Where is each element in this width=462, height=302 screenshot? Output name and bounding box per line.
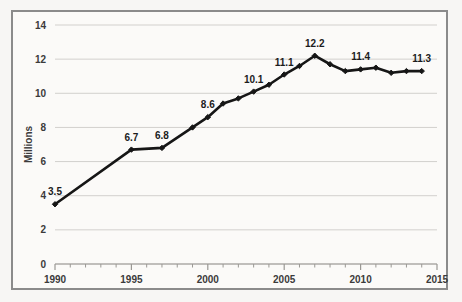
y-axis-tick-label: 6	[40, 156, 46, 167]
data-point-label: 8.6	[201, 99, 215, 110]
series-line-millions	[55, 56, 422, 205]
y-axis-tick-label: 12	[35, 54, 47, 65]
series-data-point	[358, 67, 363, 72]
series-data-point	[404, 68, 409, 73]
data-point-label: 12.2	[305, 38, 325, 49]
data-point-label: 11.1	[275, 57, 294, 68]
chart-figure: 02468101214 199019952000200520102015 3.5…	[0, 0, 462, 302]
data-point-label: 3.5	[48, 186, 62, 197]
gridlines-group	[55, 25, 437, 264]
axis-title-group: Millions	[23, 125, 34, 163]
x-axis-tick-label: 2010	[349, 274, 372, 285]
y-axis-tick-label: 2	[40, 224, 46, 235]
series-group	[52, 53, 424, 207]
x-axis-tick-label: 1995	[120, 274, 143, 285]
line-chart-plot: 02468101214 199019952000200520102015 3.5…	[0, 0, 462, 302]
y-axis-tick-label: 14	[35, 20, 47, 31]
y-axis-tick-label: 8	[40, 122, 46, 133]
data-point-label: 11.3	[412, 53, 431, 64]
data-point-label: 6.7	[124, 132, 138, 143]
y-axis-group: 02468101214	[35, 20, 47, 270]
data-point-label: 10.1	[244, 74, 264, 85]
y-axis-tick-label: 10	[35, 88, 47, 99]
y-axis-tick-label: 4	[40, 190, 46, 201]
series-data-point	[419, 68, 424, 73]
data-point-label: 11.4	[351, 51, 370, 62]
y-axis-tick-label: 0	[40, 259, 46, 270]
x-axis-group: 199019952000200520102015	[44, 264, 449, 285]
x-axis-tick-label: 2005	[273, 274, 296, 285]
x-axis-tick-label: 1990	[44, 274, 67, 285]
x-axis-tick-label: 2000	[197, 274, 220, 285]
point-labels-group: 3.56.76.88.610.111.112.211.411.3	[48, 38, 432, 198]
x-axis-tick-label: 2015	[426, 274, 449, 285]
data-point-label: 6.8	[155, 130, 169, 141]
y-axis-title: Millions	[23, 125, 34, 163]
